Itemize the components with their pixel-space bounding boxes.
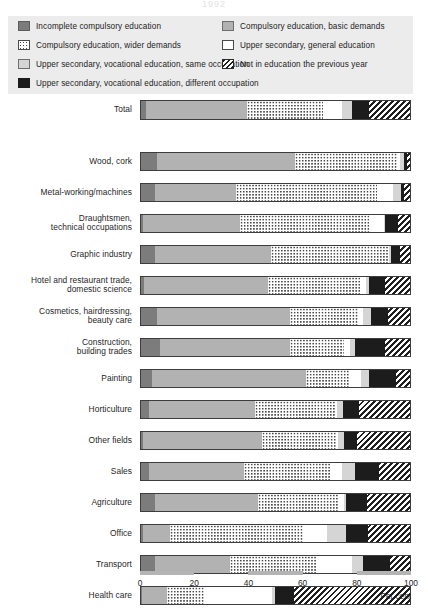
- category-label-line: Horticulture: [2, 405, 132, 415]
- axis-decor-segment: [140, 571, 194, 575]
- stacked-bar[interactable]: [140, 369, 411, 388]
- bar-segment-dot: [258, 494, 339, 511]
- bar-segment-dot: [240, 215, 370, 232]
- bar-segment-dark: [141, 494, 155, 511]
- bar-segment-hatch: [385, 339, 411, 356]
- category-label-line: Sales: [2, 467, 132, 477]
- category-label: Transport: [2, 560, 132, 570]
- bar-segment-dark: [141, 184, 155, 201]
- category-label: Hotel and restaurant trade,domestic scie…: [2, 276, 132, 295]
- bar-segment-light: [342, 463, 356, 480]
- stacked-bar[interactable]: [140, 152, 411, 171]
- bar-segment-dot: [306, 370, 349, 387]
- bar-segment-black: [369, 277, 385, 294]
- bar-segment-dot: [170, 525, 303, 542]
- bar-segment-dot: [244, 463, 331, 480]
- stacked-bar[interactable]: [140, 400, 411, 419]
- axis-tick-label: 80: [352, 578, 361, 588]
- bar-segment-hatch: [379, 463, 411, 480]
- category-label: Agriculture: [2, 498, 132, 508]
- bar-segment-medium: [143, 432, 262, 449]
- bar-segment-white: [303, 525, 327, 542]
- bar-segment-light: [342, 101, 353, 119]
- axis-tick-label: 0: [138, 578, 143, 588]
- bar-segment-medium: [143, 215, 241, 232]
- bar-segment-dot: [236, 184, 377, 201]
- axis-decor-segment: [248, 571, 302, 575]
- bar-segment-hatch: [404, 184, 411, 201]
- bar-segment-medium: [149, 401, 255, 418]
- stacked-bar[interactable]: [140, 100, 411, 120]
- bar-segment-light: [361, 370, 369, 387]
- bar-segment-hatch: [359, 401, 411, 418]
- axis-decor-bars: [140, 571, 411, 575]
- stacked-bar[interactable]: [140, 493, 411, 512]
- chart-row-construction-building-trades: Construction,building trades: [0, 338, 428, 357]
- stacked-bar[interactable]: [140, 524, 411, 543]
- chart-row-other-fields: Other fields: [0, 431, 428, 450]
- chart-row-total: Total: [0, 100, 428, 120]
- category-label-line: Total: [2, 105, 132, 115]
- category-label: Wood, cork: [2, 157, 132, 167]
- category-label-line: Health care: [2, 591, 132, 601]
- axis-tick-label: 40: [244, 578, 253, 588]
- stacked-bar[interactable]: [140, 338, 411, 357]
- category-label: Horticulture: [2, 405, 132, 415]
- category-label-line: domestic science: [2, 285, 132, 295]
- bar-segment-black: [355, 339, 385, 356]
- bar-segment-light: [363, 308, 371, 325]
- bar-segment-light: [393, 184, 401, 201]
- stacked-bar[interactable]: [140, 431, 411, 450]
- bar-segment-black: [346, 525, 368, 542]
- stacked-bar[interactable]: [140, 276, 411, 295]
- bar-segment-medium: [146, 101, 246, 119]
- chart-row-sales: Sales: [0, 462, 428, 481]
- bar-segment-medium: [157, 153, 295, 170]
- bar-segment-hatch: [369, 101, 411, 119]
- bar-segment-white: [370, 215, 384, 232]
- axis-tick-label: 100: [404, 578, 418, 588]
- stacked-bar[interactable]: [140, 214, 411, 233]
- category-label-line: Graphic industry: [2, 250, 132, 260]
- category-label-line: Transport: [2, 560, 132, 570]
- bar-segment-dark: [141, 401, 149, 418]
- chart-row-graphic-industry: Graphic industry: [0, 245, 428, 264]
- category-label: Other fields: [2, 436, 132, 446]
- chart-row-office: Office: [0, 524, 428, 543]
- category-label: Graphic industry: [2, 250, 132, 260]
- axis-decor-segment: [357, 571, 411, 575]
- category-label-line: beauty care: [2, 316, 132, 326]
- bar-segment-medium: [144, 277, 269, 294]
- stacked-bar[interactable]: [140, 183, 411, 202]
- category-label: Construction,building trades: [2, 338, 132, 357]
- stacked-bar[interactable]: [140, 245, 411, 264]
- category-label: Office: [2, 529, 132, 539]
- bar-segment-dot: [262, 432, 335, 449]
- bar-segment-medium: [155, 246, 272, 263]
- bar-segment-dark: [141, 308, 157, 325]
- category-label-line: technical occupations: [2, 223, 132, 233]
- stacked-bar[interactable]: [140, 307, 411, 326]
- bar-segment-medium: [157, 308, 290, 325]
- bar-segment-hatch: [357, 432, 411, 449]
- category-label-line: Agriculture: [2, 498, 132, 508]
- category-label: Metal-working/machines: [2, 188, 132, 198]
- bar-segment-hatch: [400, 246, 411, 263]
- bar-segment-white: [377, 184, 393, 201]
- chart-row-wood-cork: Wood, cork: [0, 152, 428, 171]
- bar-segment-black: [352, 101, 368, 119]
- bar-segment-hatch: [407, 153, 411, 170]
- bar-segment-hatch: [396, 370, 411, 387]
- category-label: Cosmetics, hairdressing,beauty care: [2, 307, 132, 326]
- stacked-bar[interactable]: [140, 462, 411, 481]
- bar-segment-black: [355, 463, 379, 480]
- bar-segment-white: [331, 463, 342, 480]
- bar-segment-medium: [155, 184, 236, 201]
- category-label: Health care: [2, 591, 132, 601]
- chart-row-metal-working-machines: Metal-working/machines: [0, 183, 428, 202]
- bar-segment-medium: [160, 339, 290, 356]
- category-label-line: building trades: [2, 347, 132, 357]
- bar-segment-medium: [152, 370, 306, 387]
- axis-tick-label: 20: [190, 578, 199, 588]
- chart-row-painting: Painting: [0, 369, 428, 388]
